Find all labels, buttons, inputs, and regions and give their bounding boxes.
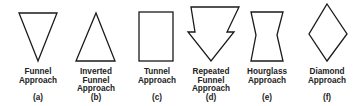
tunnel-letter: (c) — [142, 93, 172, 102]
diamond-letter: (f) — [312, 93, 342, 102]
label-line: Approach — [292, 77, 357, 86]
funnel-letter: (a) — [23, 93, 53, 102]
diamond-shape — [309, 4, 347, 61]
inverted-funnel-shape — [76, 13, 115, 61]
inverted-funnel-letter: (b) — [81, 93, 111, 102]
hourglass-letter: (e) — [252, 93, 282, 102]
funnel-shape — [19, 13, 57, 61]
repeated-funnel-shape — [188, 7, 239, 61]
tunnel-shape — [139, 12, 173, 61]
inverted-funnel-label: Inverted Funnel Approach — [61, 68, 131, 94]
diamond-label: Diamond Approach — [292, 68, 357, 85]
repeated-funnel-letter: (d) — [196, 93, 226, 102]
hourglass-shape — [251, 12, 283, 61]
